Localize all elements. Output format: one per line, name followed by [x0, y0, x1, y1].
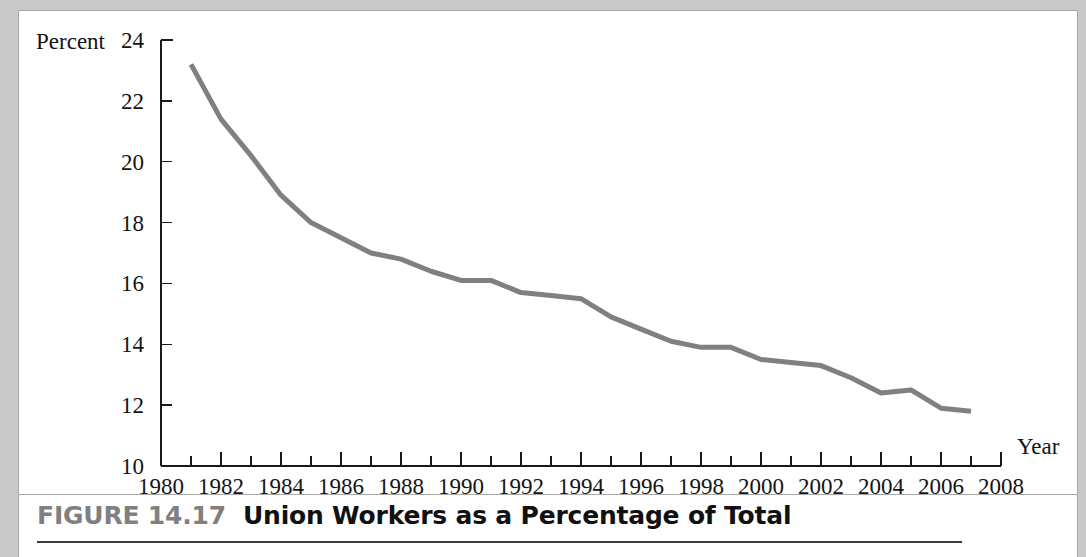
figure-title: Union Workers as a Percentage of Total: [243, 501, 791, 530]
x-tick-label-1990: 1990: [438, 474, 484, 494]
figure-number: FIGURE 14.17: [37, 501, 226, 530]
y-tick-label-22: 22: [121, 89, 144, 114]
y-tick-label-20: 20: [121, 150, 144, 175]
x-tick-label-2000: 2000: [738, 474, 784, 494]
x-tick-label-1998: 1998: [678, 474, 724, 494]
caption-divider: [37, 541, 962, 543]
figure-caption-strip: FIGURE 14.17 Union Workers as a Percenta…: [18, 495, 1078, 557]
x-tick-label-1980: 1980: [138, 474, 184, 494]
y-tick-label-12: 12: [121, 393, 144, 418]
line-chart: 1012141618202224198019821984198619881990…: [19, 11, 1077, 494]
x-tick-label-1982: 1982: [198, 474, 244, 494]
y-tick-label-24: 24: [121, 28, 145, 53]
y-tick-label-14: 14: [121, 332, 145, 357]
x-tick-label-2006: 2006: [918, 474, 964, 494]
figure-panel: 1012141618202224198019821984198619881990…: [18, 10, 1078, 495]
y-tick-label-16: 16: [121, 271, 144, 296]
y-axis-title: Percent: [36, 29, 106, 54]
x-tick-label-2004: 2004: [858, 474, 905, 494]
y-tick-label-18: 18: [121, 211, 144, 236]
x-tick-label-1984: 1984: [258, 474, 305, 494]
figure-page: 1012141618202224198019821984198619881990…: [0, 0, 1086, 557]
x-tick-label-2002: 2002: [798, 474, 844, 494]
figure-caption: FIGURE 14.17 Union Workers as a Percenta…: [37, 501, 791, 530]
x-axis-title: Year: [1017, 434, 1060, 459]
x-tick-label-1992: 1992: [498, 474, 544, 494]
data-series-line: [191, 64, 971, 411]
x-tick-label-2008: 2008: [978, 474, 1024, 494]
x-tick-label-1986: 1986: [318, 474, 364, 494]
x-tick-label-1994: 1994: [558, 474, 605, 494]
x-tick-label-1988: 1988: [378, 474, 424, 494]
x-tick-label-1996: 1996: [618, 474, 664, 494]
